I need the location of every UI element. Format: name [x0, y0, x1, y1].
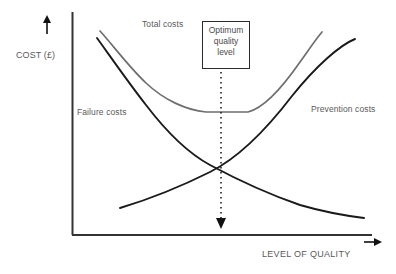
quality-cost-chart: COST (£) LEVEL OF QUALITY Total costs Fa…	[0, 0, 396, 274]
x-axis-label: LEVEL OF QUALITY	[262, 249, 351, 259]
optimum-line-3: level	[203, 47, 249, 58]
prevention-costs-label: Prevention costs	[311, 104, 375, 114]
optimum-line-2: quality	[203, 36, 249, 47]
optimum-quality-level-callout: Optimum quality level	[202, 21, 250, 69]
chart-canvas	[0, 0, 396, 274]
failure-costs-label: Failure costs	[77, 107, 126, 117]
right-arrow-icon	[364, 238, 382, 246]
total-costs-label: Total costs	[142, 19, 183, 29]
optimum-arrow-head-icon	[216, 218, 226, 229]
optimum-line-1: Optimum	[203, 25, 249, 36]
y-axis-label: COST (£)	[16, 50, 55, 60]
up-arrow-icon	[43, 15, 51, 34]
